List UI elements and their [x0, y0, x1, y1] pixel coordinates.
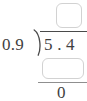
remainder: 0 [57, 84, 66, 101]
division-bracket-icon [33, 29, 43, 56]
divisor: 0.9 [2, 36, 24, 53]
partial-product-input[interactable] [42, 58, 84, 79]
dividend: 5 . 4 [44, 36, 75, 53]
quotient-input[interactable] [56, 3, 82, 28]
division-vinculum [40, 31, 87, 32]
long-division-worksheet: 0.9 5 . 4 0 [0, 0, 87, 101]
